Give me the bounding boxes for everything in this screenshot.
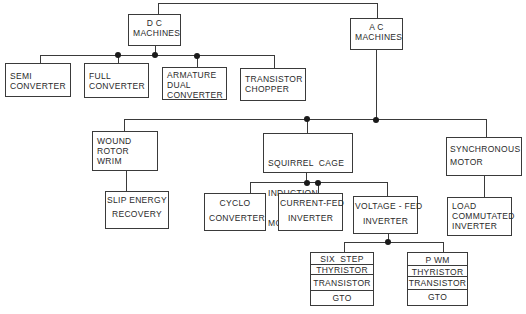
vsi-drop-sixstep bbox=[344, 242, 345, 252]
node-label: FULL bbox=[89, 71, 144, 81]
node-label: CONVERTER bbox=[89, 81, 144, 91]
six-step-header: SIX STEP bbox=[311, 253, 373, 265]
semi-converter-node: SEMI CONVERTER bbox=[5, 63, 71, 97]
node-label: SYNCHRONOUS bbox=[450, 144, 517, 154]
pwm-gto: GTO bbox=[408, 290, 467, 305]
node-label: VOLTAGE - FED bbox=[355, 201, 416, 211]
vsi-drop-pwm bbox=[443, 242, 444, 252]
node-label: CYCLO bbox=[209, 198, 261, 208]
node-label: CONVERTER bbox=[209, 213, 261, 223]
node-label: ARMATURE bbox=[167, 70, 222, 80]
node-label: MOTOR bbox=[450, 157, 517, 167]
load-commutated-inverter-node: LOAD COMMUTATED INVERTER bbox=[447, 197, 512, 236]
six-step-gto: GTO bbox=[311, 291, 373, 305]
node-label: RECOVERY bbox=[107, 209, 167, 219]
node-label: CHOPPER bbox=[245, 84, 301, 94]
synchronous-motor-node: SYNCHRONOUS MOTOR bbox=[446, 137, 522, 176]
root-connector-top bbox=[158, 3, 378, 4]
junction-dot bbox=[152, 52, 158, 58]
armature-dual-converter-node: ARMATURE DUAL CONVERTER bbox=[162, 67, 227, 100]
node-label: DUAL bbox=[167, 80, 222, 90]
node-label: CONVERTER bbox=[167, 90, 222, 100]
node-label: A C bbox=[355, 22, 398, 32]
transistor-chopper-node: TRANSISTOR CHOPPER bbox=[240, 68, 306, 101]
node-label: SLIP ENERGY bbox=[107, 195, 167, 205]
junction-dot bbox=[304, 116, 310, 122]
node-label: SQUIRREL CAGE bbox=[268, 158, 348, 168]
dc-drop-chopper bbox=[274, 55, 275, 68]
scim-drop-vsi bbox=[387, 182, 388, 196]
slip-energy-recovery-node: SLIP ENERGY RECOVERY bbox=[105, 191, 169, 229]
six-step-thyristor: THYRISTOR bbox=[311, 265, 373, 275]
node-label: CURRENT-FED bbox=[280, 198, 341, 208]
dc-drop-semi bbox=[40, 55, 41, 63]
current-fed-inverter-node: CURRENT-FED INVERTER bbox=[278, 193, 343, 231]
ac-machines-node: A C MACHINES bbox=[350, 18, 403, 50]
root-connector-dc bbox=[158, 3, 159, 14]
node-label: MACHINES bbox=[355, 32, 398, 42]
squirrel-cage-node: SQUIRREL CAGE INDUCTION MOTOR bbox=[263, 133, 353, 173]
node-label: SEMI bbox=[10, 71, 66, 81]
sync-drop bbox=[484, 175, 485, 197]
node-label: WRIM bbox=[97, 156, 153, 166]
full-converter-node: FULL CONVERTER bbox=[84, 63, 149, 98]
root-connector-ac bbox=[377, 3, 378, 18]
six-step-inverter-table: SIX STEP THYRISTOR TRANSISTOR GTO bbox=[310, 252, 374, 306]
node-label: INVERTER bbox=[355, 216, 416, 226]
cyclo-converter-node: CYCLO CONVERTER bbox=[204, 193, 266, 231]
wrim-drop bbox=[126, 170, 127, 191]
node-label: INVERTER bbox=[452, 221, 507, 231]
node-label: ROTOR bbox=[97, 146, 153, 156]
pwm-thyristor: THYRISTOR bbox=[408, 265, 467, 277]
ac-drop-sync bbox=[486, 119, 487, 137]
scim-drop-cyclo bbox=[250, 182, 251, 193]
junction-dot bbox=[385, 239, 391, 245]
node-label: COMMUTATED bbox=[452, 211, 507, 221]
node-label: MACHINES bbox=[133, 28, 176, 38]
node-label: TRANSISTOR bbox=[245, 74, 301, 84]
wound-rotor-node: WOUND ROTOR WRIM bbox=[92, 131, 158, 171]
pwm-header: P WM bbox=[408, 253, 467, 265]
pwm-transistor: TRANSISTOR bbox=[408, 277, 467, 290]
ac-drop-wrim bbox=[124, 119, 125, 131]
ac-stem bbox=[376, 50, 377, 119]
junction-dot bbox=[373, 117, 379, 123]
six-step-transistor: TRANSISTOR bbox=[311, 275, 373, 291]
node-label: CONVERTER bbox=[10, 81, 66, 91]
vsi-bus bbox=[344, 242, 443, 243]
pwm-inverter-table: P WM THYRISTOR TRANSISTOR GTO bbox=[407, 252, 468, 306]
node-label: INVERTER bbox=[280, 213, 341, 223]
node-label: D C bbox=[133, 18, 176, 28]
dc-machines-node: D C MACHINES bbox=[128, 14, 181, 46]
node-label: WOUND bbox=[97, 136, 153, 146]
voltage-fed-inverter-node: VOLTAGE - FED INVERTER bbox=[353, 196, 418, 234]
junction-dot bbox=[194, 53, 200, 59]
node-label: LOAD bbox=[452, 201, 507, 211]
junction-dot bbox=[115, 52, 121, 58]
